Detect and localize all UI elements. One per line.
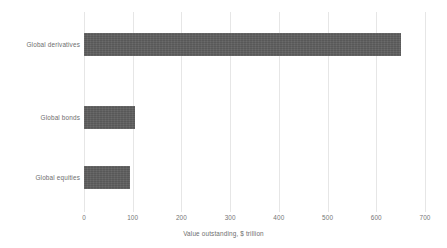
x-tick-300: 300 [210,214,250,221]
bar-global-derivatives [84,33,401,56]
bar-row [84,106,135,129]
x-tick-700: 700 [405,214,445,221]
bars-layer [84,12,425,212]
category-label-global-equities: Global equities [0,174,80,181]
x-tick-400: 400 [259,214,299,221]
gridline-700 [425,12,426,212]
x-tick-100: 100 [113,214,153,221]
bar-global-bonds [84,106,135,129]
x-tick-500: 500 [308,214,348,221]
bar-chart: Global derivativesGlobal bondsGlobal equ… [0,0,447,248]
x-tick-600: 600 [356,214,396,221]
x-axis-title: Value outstanding, $ trillion [0,230,447,237]
category-label-global-derivatives: Global derivatives [0,41,80,48]
x-tick-200: 200 [161,214,201,221]
category-label-global-bonds: Global bonds [0,114,80,121]
plot-area [84,12,425,212]
x-tick-0: 0 [64,214,104,221]
bar-row [84,33,401,56]
bar-row [84,166,130,189]
bar-global-equities [84,166,130,189]
